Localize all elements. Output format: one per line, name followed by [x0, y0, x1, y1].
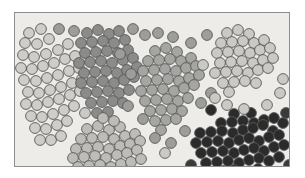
scatter-point [168, 32, 179, 43]
scatter-point [201, 158, 212, 167]
scatter-point [54, 94, 65, 105]
scatter-point [222, 100, 233, 111]
scatter-point [138, 66, 149, 77]
scatter-point [216, 38, 227, 49]
scatter-point [27, 64, 38, 75]
scatter-point [183, 93, 194, 104]
scatter-point [180, 126, 191, 137]
scatter-point [217, 126, 228, 137]
scatter-point [156, 105, 167, 116]
scatter-point [161, 43, 172, 54]
scatter-point [265, 43, 276, 54]
scatter-point [54, 24, 65, 35]
scatter-point [239, 145, 250, 156]
scatter-point [81, 88, 92, 99]
scatter-point [87, 37, 98, 48]
scatter-plot-figure [0, 0, 305, 178]
scatter-point [38, 61, 49, 72]
scatter-point [128, 24, 139, 35]
scatter-point [35, 135, 46, 146]
scatter-point [160, 148, 171, 159]
scatter-point [196, 98, 207, 109]
scatter-point [53, 70, 64, 81]
scatter-point [262, 100, 273, 111]
scatter-point [223, 47, 234, 58]
scatter-point [240, 76, 251, 87]
scatter-point [56, 82, 67, 93]
scatter-point [281, 108, 290, 119]
scatter-point [227, 37, 238, 48]
scatter-point [179, 83, 190, 94]
scatter-point [213, 136, 224, 147]
scatter-point [37, 112, 48, 123]
scatter-point [244, 155, 255, 166]
scatter-point [126, 157, 137, 167]
scatter-point [124, 85, 135, 96]
scatter-point [74, 58, 85, 69]
scatter-point [26, 111, 37, 122]
scatter-point [248, 123, 259, 134]
scatter-point [136, 154, 147, 165]
scatter-point [153, 28, 164, 39]
scatter-point [166, 138, 177, 149]
scatter-point [41, 49, 52, 60]
scatter-point [103, 86, 114, 97]
scatter-point [69, 26, 80, 37]
scatter-point [191, 138, 202, 149]
scatter-point [237, 56, 248, 67]
scatter-point [147, 85, 158, 96]
scatter-point [227, 117, 238, 128]
scatter-point [264, 132, 275, 143]
scatter-point [238, 36, 249, 47]
scatter-point [258, 120, 269, 131]
scatter-point [64, 66, 75, 77]
scatter-point [46, 135, 57, 146]
scatter-point [24, 28, 35, 39]
scatter-point [18, 50, 29, 61]
scatter-point [49, 58, 60, 69]
scatter-point [162, 94, 173, 105]
scatter-point [194, 70, 205, 81]
scatter-point [224, 87, 235, 98]
scatter-point [189, 80, 200, 91]
scatter-point [45, 85, 56, 96]
scatter-canvas [15, 13, 290, 167]
scatter-point [263, 63, 274, 74]
scatter-point [149, 65, 160, 76]
scatter-point [212, 48, 223, 59]
scatter-series-cluster-4-light-upper-right [210, 25, 279, 98]
scatter-point [274, 130, 285, 141]
scatter-point [167, 104, 178, 115]
scatter-point [69, 101, 80, 112]
scatter-point [171, 114, 182, 125]
scatter-point [138, 114, 149, 125]
scatter-point [53, 45, 64, 56]
scatter-point [212, 157, 223, 167]
scatter-point [171, 66, 182, 77]
scatter-point [196, 148, 207, 159]
scatter-point [140, 30, 151, 41]
scatter-point [232, 66, 243, 77]
scatter-point [60, 54, 71, 65]
scatter-point [98, 113, 109, 124]
scatter-point [90, 67, 101, 78]
scatter-point [198, 60, 209, 71]
scatter-point [32, 100, 43, 111]
scatter-point [151, 95, 162, 106]
scatter-point [59, 105, 70, 116]
scatter-point [202, 137, 213, 148]
scatter-point [245, 48, 256, 59]
scatter-point [86, 98, 97, 109]
scatter-point [44, 34, 55, 45]
scatter-point [165, 54, 176, 65]
scatter-point [195, 128, 206, 139]
scatter-point [140, 96, 151, 107]
scatter-point [207, 147, 218, 158]
scatter-point [202, 30, 213, 41]
scatter-point [98, 36, 109, 47]
scatter-point [63, 39, 74, 50]
scatter-point [84, 161, 95, 167]
scatter-point [16, 63, 27, 74]
scatter-point [19, 75, 30, 86]
scatter-point [108, 96, 119, 107]
